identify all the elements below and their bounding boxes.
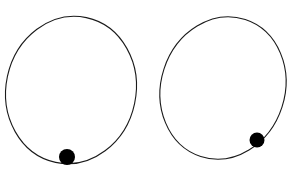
left-orbit-panel	[0, 4, 150, 171]
orbit-diagram	[0, 0, 300, 171]
right-orbit-ellipse	[142, 0, 300, 171]
left-orbit-ball	[59, 149, 75, 165]
left-orbit-ellipse	[0, 4, 150, 171]
right-orbit-panel	[142, 0, 300, 171]
right-orbit-ball	[250, 133, 265, 148]
